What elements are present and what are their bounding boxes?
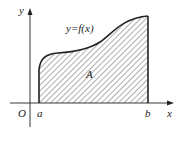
origin-label: O bbox=[18, 107, 26, 119]
x-axis-label: x bbox=[166, 107, 172, 119]
y-axis-arrow-icon bbox=[28, 8, 33, 15]
upper-bound-label: b bbox=[145, 107, 151, 119]
lower-bound-label: a bbox=[37, 107, 43, 119]
region-label: A bbox=[85, 68, 93, 80]
curve-label: y=f(x) bbox=[65, 22, 94, 35]
x-axis-arrow-icon bbox=[167, 101, 174, 106]
y-axis-label: y bbox=[18, 4, 24, 16]
area-under-curve-diagram: y y=f(x) A O a b x bbox=[0, 0, 184, 142]
